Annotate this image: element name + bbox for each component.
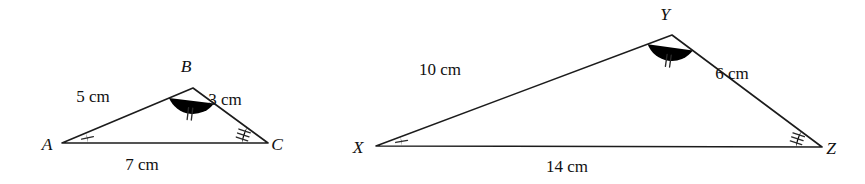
side-label-ac: 7 cm [125, 155, 159, 174]
triangle-abc: ABC5 cm3 cm7 cm [41, 56, 284, 174]
triangle-xyz: XYZ10 cm6 cm14 cm [352, 4, 836, 176]
side-label-bc: 3 cm [208, 90, 242, 109]
angle-arc-b [169, 98, 214, 114]
figure-canvas: ABC5 cm3 cm7 cmXYZ10 cm6 cm14 cm [0, 0, 865, 184]
vertex-label-a: A [41, 134, 53, 154]
angle-tick-z-1 [790, 141, 801, 145]
side-label-xz: 14 cm [546, 157, 588, 176]
similar-triangles-figure: ABC5 cm3 cm7 cmXYZ10 cm6 cm14 cm [0, 0, 865, 184]
angle-mark-y [648, 44, 693, 67]
vertex-label-x: X [352, 137, 365, 157]
angle-mark-z [790, 131, 804, 147]
side-label-xy: 10 cm [419, 60, 461, 79]
vertex-label-b: B [181, 56, 192, 76]
angle-tick-c-1 [236, 137, 247, 141]
angle-mark-b [169, 98, 214, 120]
angle-mark-c [236, 128, 250, 143]
triangle-xyz-outline [376, 35, 822, 147]
vertex-label-y: Y [660, 4, 672, 24]
side-label-ab: 5 cm [76, 87, 110, 106]
side-label-yz: 6 cm [715, 64, 749, 83]
vertex-label-z: Z [826, 138, 836, 158]
vertex-label-c: C [271, 134, 283, 154]
